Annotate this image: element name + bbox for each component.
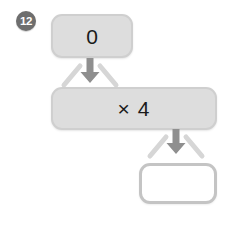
question-number-badge: 12	[16, 11, 36, 31]
input-value-label: 0	[86, 26, 98, 47]
answer-blank-box[interactable]	[139, 163, 217, 204]
worksheet-diagram-canvas: 12 0 × 4	[0, 0, 233, 227]
connector-input-to-operation	[60, 57, 120, 89]
down-arrow-icon	[146, 128, 206, 160]
input-value-box: 0	[51, 14, 133, 58]
operation-rule-box: × 4	[51, 87, 217, 130]
operation-rule-label: × 4	[118, 98, 151, 119]
down-arrow-icon	[60, 57, 120, 89]
connector-operation-to-output	[146, 128, 206, 160]
